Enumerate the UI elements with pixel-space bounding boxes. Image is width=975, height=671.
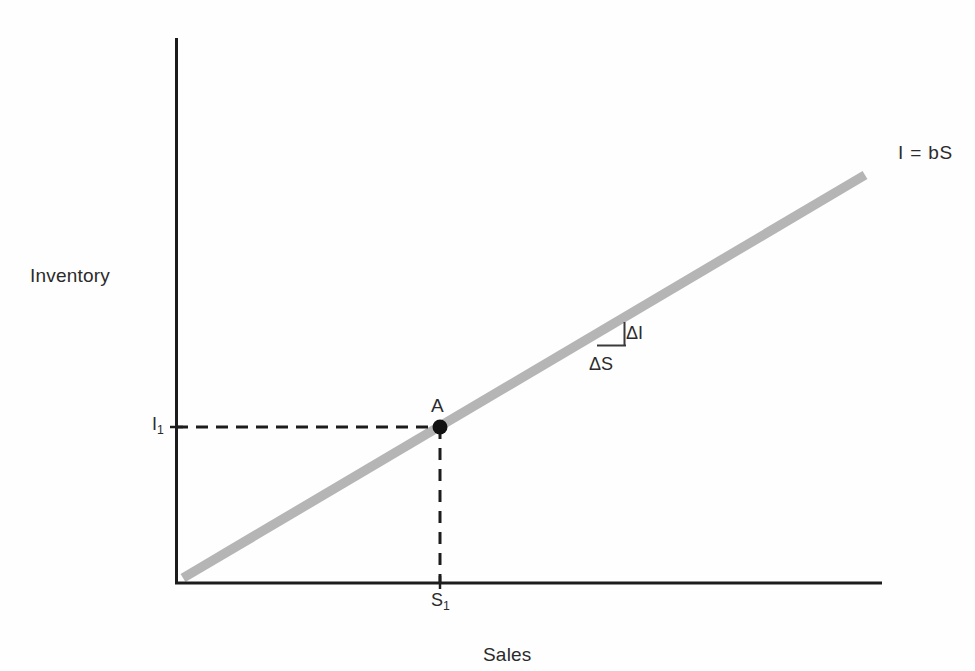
y-axis-tick-label-i1: I1 bbox=[152, 415, 164, 436]
delta-i-symbol: Δ bbox=[626, 323, 638, 343]
chart-plot-area bbox=[0, 0, 975, 671]
x-axis-tick-label-s1: S1 bbox=[431, 591, 450, 612]
chart-background bbox=[0, 0, 975, 671]
x-tick-subscript: 1 bbox=[443, 599, 450, 613]
delta-s-variable: S bbox=[601, 354, 613, 374]
data-point-a-marker bbox=[433, 420, 448, 435]
delta-s-symbol: Δ bbox=[589, 354, 601, 374]
chart-figure: Inventory Sales I = bS ΔI ΔS A I1 S1 bbox=[0, 0, 975, 671]
x-tick-base: S bbox=[431, 590, 443, 610]
x-axis-title: Sales bbox=[483, 645, 532, 664]
y-axis-title: Inventory bbox=[30, 266, 110, 285]
data-point-a-label: A bbox=[431, 396, 444, 415]
delta-s-label: ΔS bbox=[589, 355, 613, 373]
line-equation-label: I = bS bbox=[898, 143, 953, 162]
delta-i-variable: I bbox=[638, 323, 643, 343]
y-tick-subscript: 1 bbox=[157, 423, 164, 437]
delta-i-label: ΔI bbox=[626, 324, 643, 342]
